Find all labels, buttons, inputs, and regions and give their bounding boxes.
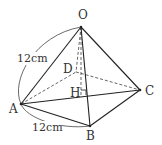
label-C: C: [145, 84, 154, 98]
edge-OC: [81, 27, 140, 90]
vertex-dot-C: [139, 89, 142, 92]
label-O: O: [78, 8, 88, 22]
label-B: B: [86, 129, 95, 143]
label-D: D: [63, 62, 73, 76]
label-A: A: [8, 102, 18, 116]
edge-OB: [81, 27, 90, 126]
vertex-dot-A: [20, 103, 23, 106]
measure-label-OA: 12cm: [17, 52, 48, 65]
pyramid-diagram: O A B C D H 12cm 12cm: [0, 0, 162, 145]
right-angle-marker: [81, 90, 86, 95]
edge-OD: [76, 27, 81, 72]
edge-AD: [21, 72, 76, 104]
measure-label-AB: 12cm: [32, 121, 63, 134]
vertex-dot-O: [80, 26, 82, 28]
diagonal-AC: [21, 90, 140, 104]
vertex-dot-B: [89, 125, 91, 127]
label-H: H: [70, 86, 80, 100]
